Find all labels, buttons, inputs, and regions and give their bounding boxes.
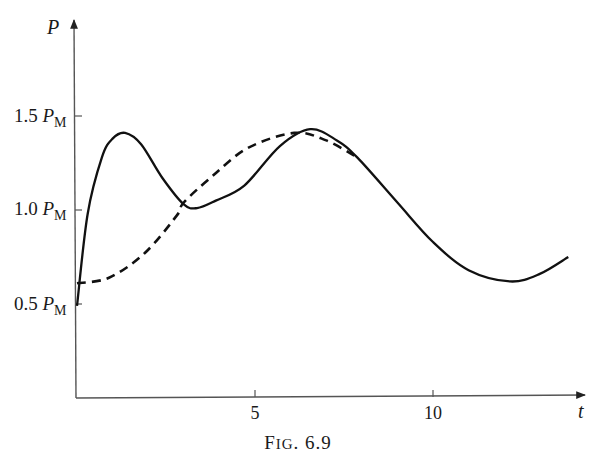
y-tick-label-1.0: 1.0 PM	[14, 199, 67, 225]
dashed-curve	[77, 133, 357, 284]
x-axis-title: t	[578, 400, 584, 423]
chart-canvas	[0, 0, 596, 462]
solid-curve	[77, 129, 568, 306]
figure-caption: FIG. 6.9	[264, 432, 332, 454]
x-tick-label-10: 10	[424, 403, 442, 424]
y-tick-label-1.5: 1.5 PM	[14, 106, 67, 132]
x-tick-label-5: 5	[251, 403, 260, 424]
x-axis	[76, 395, 585, 398]
y-axis-title: P	[47, 16, 59, 39]
y-tick-label-0.5: 0.5 PM	[14, 294, 67, 320]
y-axis	[74, 20, 76, 398]
